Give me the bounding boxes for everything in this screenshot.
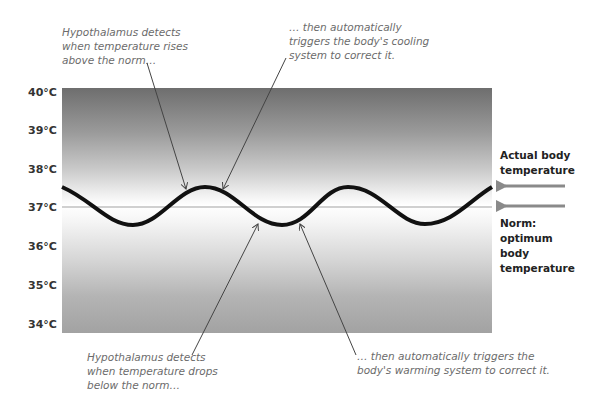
leader-line-warming — [300, 224, 356, 355]
annotation-drop-detect: Hypothalamus detects when temperature dr… — [87, 350, 218, 392]
annotation-warming: … then automatically triggers the body's… — [357, 349, 550, 377]
legend-norm: Norm: optimum body temperature — [500, 216, 575, 276]
legend-actual-temperature: Actual body temperature — [500, 148, 575, 178]
leader-line-cooling — [223, 58, 286, 189]
diagram-overlay — [0, 0, 591, 408]
leader-line-drop — [192, 224, 258, 355]
leader-line-rise — [147, 63, 186, 189]
